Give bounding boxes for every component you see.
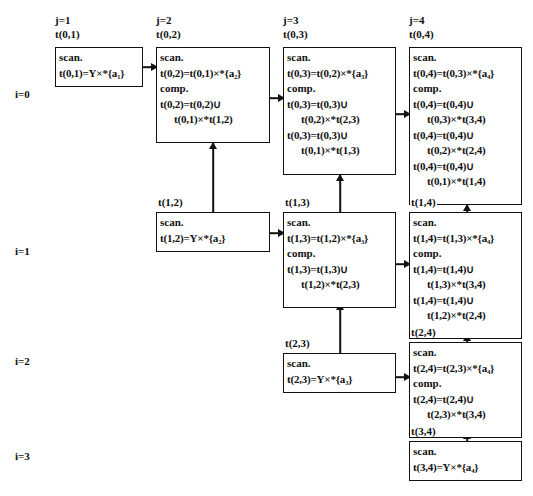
- node-t24[interactable]: scan. t(2,4)=t(2,3)×*{a₄} comp. t(2,4)=t…: [409, 342, 522, 438]
- node-t23[interactable]: scan. t(2,3)=Y×*{a₃}: [283, 353, 396, 393]
- node-label-t13: t(1,3): [284, 196, 311, 208]
- node-t12-line-0: scan.: [160, 215, 266, 231]
- column-header-t03: t(0,3): [283, 28, 308, 41]
- node-t04-line-4: t(0,3)×*t(3,4): [413, 112, 518, 128]
- node-t13-line-1: t(1,3)=t(1,2)×*{a₃}: [287, 231, 392, 247]
- node-t03-line-6: t(0,1)×*t(1,3): [287, 143, 392, 159]
- node-t04[interactable]: scan. t(0,4)=t(0,3)×*{a₄} comp. t(0,4)=t…: [409, 47, 522, 205]
- column-header-j2: j=2: [156, 14, 171, 27]
- node-t13-line-4: t(1,2)×*t(2,3): [287, 277, 392, 293]
- node-t34[interactable]: scan. t(3,4)=Y×*{a₄}: [409, 441, 522, 481]
- arrow-t12-to-t13: [270, 228, 284, 238]
- diagram-canvas: j=1 t(0,1) j=2 t(0,2) j=3 t(0,3) j=4 t(0…: [0, 0, 533, 496]
- node-t01[interactable]: scan. t(0,1)=Y×*{a₁}: [55, 47, 143, 87]
- node-t04-line-6: t(0,2)×*t(2,4): [413, 143, 518, 159]
- node-t01-line-0: scan.: [59, 50, 139, 66]
- column-header-t04: t(0,4): [409, 28, 434, 41]
- node-t14-line-6: t(1,2)×*t(2,4): [413, 308, 518, 324]
- arrow-t12-to-t02: [208, 143, 218, 212]
- node-t24-line-3: t(2,4)=t(2,4)∪: [413, 392, 518, 408]
- column-header-j3: j=3: [283, 14, 298, 27]
- arrow-t23-to-t13: [335, 304, 345, 353]
- node-t14-line-5: t(1,4)=t(1,4)∪: [413, 293, 518, 309]
- column-header-t02: t(0,2): [156, 28, 181, 41]
- node-t01-line-1: t(0,1)=Y×*{a₁}: [59, 66, 139, 82]
- node-t03-line-3: t(0,3)=t(0,3)∪: [287, 97, 392, 113]
- node-t13[interactable]: scan. t(1,3)=t(1,2)×*{a₃} comp. t(1,3)=t…: [283, 212, 396, 308]
- arrow-t23-to-t24: [396, 372, 410, 382]
- node-t04-line-2: comp.: [413, 81, 518, 97]
- node-t02-line-2: comp.: [160, 81, 266, 97]
- node-t14-line-1: t(1,4)=t(1,3)×*{a₄}: [413, 231, 518, 247]
- row-label-i1: i=1: [15, 245, 30, 257]
- node-t12-line-1: t(1,2)=Y×*{a₂}: [160, 231, 266, 247]
- node-t14-line-0: scan.: [413, 215, 518, 231]
- node-label-t12: t(1,2): [157, 196, 184, 208]
- node-label-t23: t(2,3): [284, 337, 311, 349]
- node-t04-line-1: t(0,4)=t(0,3)×*{a₄}: [413, 66, 518, 82]
- node-t02-line-4: t(0,1)×*t(1,2): [160, 112, 266, 128]
- row-label-i3: i=3: [15, 450, 30, 462]
- node-t24-line-4: t(2,3)×*t(3,4): [413, 407, 518, 423]
- node-t02-line-3: t(0,2)=t(0,2)∪: [160, 97, 266, 113]
- node-t14[interactable]: scan. t(1,4)=t(1,3)×*{a₄} comp. t(1,4)=t…: [409, 212, 522, 339]
- node-t03-line-4: t(0,2)×*t(2,3): [287, 112, 392, 128]
- node-t24-line-0: scan.: [413, 345, 518, 361]
- node-t23-line-1: t(2,3)=Y×*{a₃}: [287, 372, 392, 388]
- node-t03-line-0: scan.: [287, 50, 392, 66]
- arrow-t03-to-t04: [396, 109, 410, 119]
- node-label-t14: t(1,4): [410, 196, 437, 208]
- node-t02-line-1: t(0,2)=t(0,1)×*{a₂}: [160, 66, 266, 82]
- arrow-t13-to-t14: [396, 259, 410, 269]
- arrow-t01-to-t02: [143, 62, 157, 72]
- node-t13-line-2: comp.: [287, 246, 392, 262]
- node-t34-line-0: scan.: [413, 444, 518, 460]
- node-label-t24: t(2,4): [410, 326, 437, 338]
- node-t14-line-4: t(1,3)×*t(3,4): [413, 277, 518, 293]
- node-t23-line-0: scan.: [287, 356, 392, 372]
- arrow-t02-to-t03: [270, 93, 284, 103]
- node-t24-line-1: t(2,4)=t(2,3)×*{a₄}: [413, 361, 518, 377]
- node-t12[interactable]: scan. t(1,2)=Y×*{a₂}: [156, 212, 270, 252]
- node-t13-line-3: t(1,3)=t(1,3)∪: [287, 262, 392, 278]
- node-t13-line-0: scan.: [287, 215, 392, 231]
- node-t03-line-2: comp.: [287, 81, 392, 97]
- column-header-j1: j=1: [55, 14, 70, 27]
- node-t02-line-0: scan.: [160, 50, 266, 66]
- node-t14-line-3: t(1,4)=t(1,4)∪: [413, 262, 518, 278]
- node-t04-line-3: t(0,4)=t(0,4)∪: [413, 97, 518, 113]
- node-label-t34: t(3,4): [410, 425, 437, 437]
- node-t24-line-2: comp.: [413, 376, 518, 392]
- node-t03-line-1: t(0,3)=t(0,2)×*{a₃}: [287, 66, 392, 82]
- node-t02[interactable]: scan. t(0,2)=t(0,1)×*{a₂} comp. t(0,2)=t…: [156, 47, 270, 143]
- node-t03-line-5: t(0,3)=t(0,3)∪: [287, 128, 392, 144]
- node-t04-line-8: t(0,1)×*t(1,4): [413, 174, 518, 190]
- node-t34-line-1: t(3,4)=Y×*{a₄}: [413, 460, 518, 476]
- column-header-j4: j=4: [409, 14, 424, 27]
- node-t03[interactable]: scan. t(0,3)=t(0,2)×*{a₃} comp. t(0,3)=t…: [283, 47, 396, 175]
- node-t14-line-2: comp.: [413, 246, 518, 262]
- row-label-i0: i=0: [15, 88, 30, 100]
- row-label-i2: i=2: [15, 355, 30, 367]
- node-t04-line-7: t(0,4)=t(0,4)∪: [413, 159, 518, 175]
- node-t04-line-0: scan.: [413, 50, 518, 66]
- column-header-t01: t(0,1): [55, 28, 80, 41]
- node-t04-line-5: t(0,4)=t(0,4)∪: [413, 128, 518, 144]
